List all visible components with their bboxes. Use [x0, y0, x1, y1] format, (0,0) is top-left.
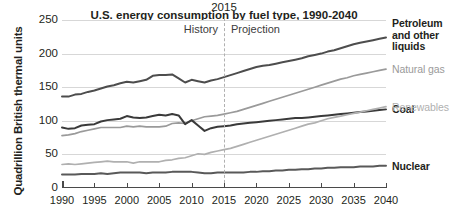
x-tick-2010 [192, 183, 193, 188]
x-tick-2015 [224, 183, 225, 188]
series-label-natural-gas: Natural gas [392, 64, 445, 75]
plot-area: U.S. energy consumption by fuel type, 19… [62, 20, 386, 188]
x-tick-label-2020: 2020 [244, 194, 268, 206]
x-tick-label-2010: 2010 [179, 194, 203, 206]
x-tick-1990 [62, 183, 63, 188]
y-tick-label-200: 200 [20, 48, 58, 60]
y-tick-label-250: 250 [20, 14, 58, 26]
y-tick-label-100: 100 [20, 115, 58, 127]
x-tick-label-1990: 1990 [50, 194, 74, 206]
divider-line-2015 [224, 18, 225, 188]
x-tick-label-2035: 2035 [341, 194, 365, 206]
projection-label: Projection [231, 23, 280, 35]
x-tick-1995 [94, 183, 95, 188]
y-axis-tick-labels: 050100150200250 [20, 20, 58, 188]
divider-year-label: 2015 [211, 1, 237, 13]
x-tick-label-2005: 2005 [147, 194, 171, 206]
x-tick-2040 [386, 183, 387, 188]
y-tick-label-150: 150 [20, 81, 58, 93]
x-tick-2025 [289, 183, 290, 188]
x-tick-label-2025: 2025 [277, 194, 301, 206]
x-tick-2005 [159, 183, 160, 188]
x-tick-label-2030: 2030 [309, 194, 333, 206]
y-tick-label-0: 0 [20, 182, 58, 194]
x-tick-label-1995: 1995 [82, 194, 106, 206]
x-tick-2000 [127, 183, 128, 188]
x-tick-2035 [354, 183, 355, 188]
gridline-0 [62, 188, 386, 189]
energy-consumption-chart: Quadrillion British thermal units 050100… [0, 0, 461, 215]
x-tick-2020 [256, 183, 257, 188]
x-tick-label-2040: 2040 [374, 194, 398, 206]
x-tick-2030 [321, 183, 322, 188]
series-label-renewables: Renewables [392, 102, 449, 113]
series-label-nuclear: Nuclear [392, 161, 430, 172]
history-label: History [184, 23, 218, 35]
x-tick-label-2015: 2015 [212, 194, 236, 206]
series-label-petroleum-and-other-liquids: Petroleum and other liquids [392, 18, 442, 51]
y-tick-label-50: 50 [20, 149, 58, 161]
x-tick-label-2000: 2000 [115, 194, 139, 206]
